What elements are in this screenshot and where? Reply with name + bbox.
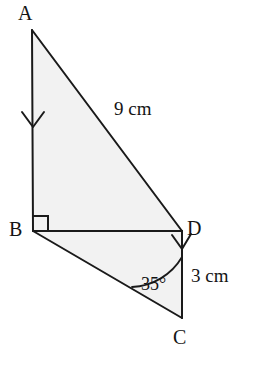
vertex-label-b: B [9, 219, 22, 239]
angle-measure-label-c: 35° [141, 275, 166, 293]
segment-ab [32, 30, 33, 231]
measurement-label-side-dc: 3 cm [191, 266, 228, 285]
vertex-label-c: C [173, 327, 186, 347]
geometry-canvas [0, 0, 266, 366]
geometry-figure: A B C D 9 cm 3 cm 35° [0, 0, 266, 366]
vertex-label-a: A [18, 3, 32, 23]
measurement-label-side-ad: 9 cm [114, 99, 151, 118]
vertex-label-d: D [187, 218, 201, 238]
